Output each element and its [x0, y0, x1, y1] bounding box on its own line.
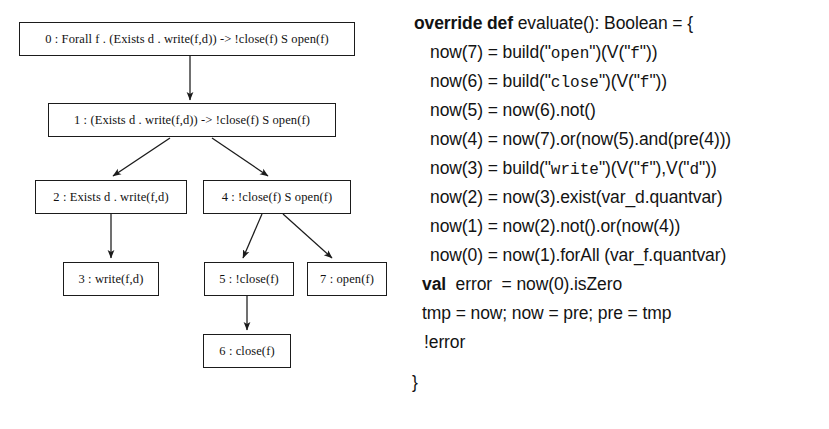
code-text: ")(V(" [599, 71, 640, 91]
tree-node-3-label: 3 : write(f,d) [75, 272, 148, 287]
tree-node-4-label: 4 : !close(f) S open(f) [218, 190, 337, 205]
figure-canvas: 0 : Forall f . (Exists d . write(f,d)) -… [0, 0, 829, 429]
tree-node-6-label: 6 : close(f) [215, 344, 278, 359]
tree-node-6[interactable]: 6 : close(f) [203, 334, 291, 368]
code-text: error = now(0).isZero [451, 274, 622, 294]
line-now3: now(3) = build("write")(V("f"),V("d")) [430, 158, 717, 180]
code-text: now(4) = now(7).or(now(5).and(pre(4))) [430, 129, 731, 149]
line-now6: now(6) = build("close")(V("f")) [430, 71, 667, 93]
code-listing: override def evaluate(): Boolean = {now(… [410, 0, 829, 429]
tree-node-0[interactable]: 0 : Forall f . (Exists d . write(f,d)) -… [19, 22, 355, 56]
tree-node-5[interactable]: 5 : !close(f) [204, 262, 294, 296]
tree-node-2-label: 2 : Exists d . write(f,d) [49, 190, 172, 205]
code-text: ")) [699, 158, 717, 178]
code-string-literal: write [551, 161, 599, 179]
tree-node-5-label: 5 : !close(f) [215, 272, 283, 287]
tree-node-2[interactable]: 2 : Exists d . write(f,d) [35, 180, 187, 214]
code-text: "),V(" [649, 158, 689, 178]
code-text: now(5) = now(6).not() [430, 100, 596, 120]
code-keyword: val [422, 274, 451, 294]
tree-node-7-label: 7 : open(f) [316, 272, 378, 287]
line-close-brace: } [412, 372, 418, 392]
code-text: now(1) = now(2).not().or(now(4)) [430, 216, 680, 236]
line-val-error: val error = now(0).isZero [422, 274, 622, 294]
code-text: now(0) = now(1).forAll (var_f.quantvar) [430, 245, 726, 265]
code-text: } [412, 372, 418, 392]
edge-1-2 [113, 138, 170, 176]
line-now7: now(7) = build("open")(V("f")) [430, 42, 657, 64]
tree-node-0-label: 0 : Forall f . (Exists d . write(f,d)) -… [41, 32, 333, 47]
edge-1-4 [212, 138, 268, 176]
line-now0: now(0) = now(1).forAll (var_f.quantvar) [430, 245, 726, 265]
code-string-literal: open [551, 45, 589, 63]
code-keyword: override def [414, 13, 518, 33]
code-string-literal: d [689, 161, 699, 179]
tree-node-4[interactable]: 4 : !close(f) S open(f) [203, 180, 351, 214]
line-signature: override def evaluate(): Boolean = { [414, 13, 693, 33]
tree-node-7[interactable]: 7 : open(f) [307, 262, 387, 296]
code-text: ")) [640, 42, 658, 62]
code-text: now(2) = now(3).exist(var_d.quantvar) [430, 187, 722, 207]
code-text: now(7) = build(" [430, 42, 551, 62]
code-text: ")) [649, 71, 667, 91]
line-now4: now(4) = now(7).or(now(5).and(pre(4))) [430, 129, 731, 149]
tree-node-1[interactable]: 1 : (Exists d . write(f,d)) -> !close(f)… [48, 103, 336, 137]
syntax-tree-diagram: 0 : Forall f . (Exists d . write(f,d)) -… [0, 0, 410, 429]
edge-4-5 [243, 214, 262, 258]
tree-node-3[interactable]: 3 : write(f,d) [63, 262, 159, 296]
code-string-literal: f [630, 45, 640, 63]
code-string-literal: close [551, 74, 599, 92]
line-now2: now(2) = now(3).exist(var_d.quantvar) [430, 187, 722, 207]
code-text: now(6) = build(" [430, 71, 551, 91]
line-now5: now(5) = now(6).not() [430, 100, 596, 120]
edge-4-7 [283, 214, 332, 258]
tree-node-1-label: 1 : (Exists d . write(f,d)) -> !close(f)… [70, 113, 314, 128]
line-now1: now(1) = now(2).not().or(now(4)) [430, 216, 680, 236]
line-not-error: !error [424, 332, 465, 352]
line-swap: tmp = now; now = pre; pre = tmp [422, 303, 671, 323]
code-text: evaluate(): Boolean = { [518, 13, 693, 33]
code-text: ")(V(" [589, 42, 630, 62]
code-text: tmp = now; now = pre; pre = tmp [422, 303, 671, 323]
code-text: now(3) = build(" [430, 158, 551, 178]
code-text: ")(V(" [599, 158, 640, 178]
code-text: !error [424, 332, 465, 352]
